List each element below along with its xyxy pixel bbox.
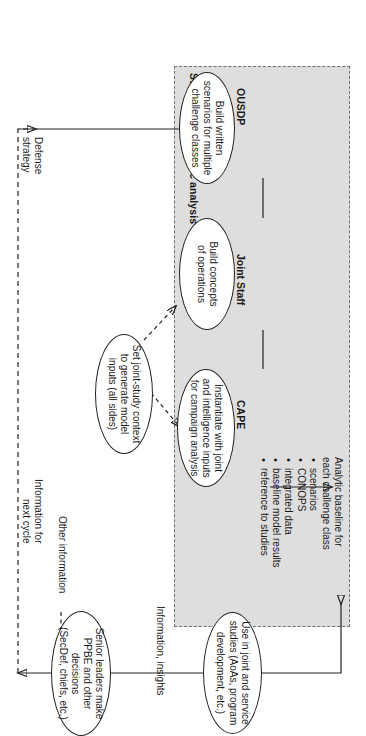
wire-next-cycle-to-defense-strategy (18, 129, 36, 673)
edge-label-defense-strategy: Defense strategy (20, 137, 44, 174)
node-ousdp-text: Build written scenarios for multiple cha… (189, 81, 226, 175)
node-ousdp[interactable]: Build written scenarios for multiple cha… (179, 72, 235, 184)
wire-baseline-to-studies (262, 604, 341, 673)
node-cape-text: Instantiate with joint and intelligence … (188, 379, 225, 478)
node-joint-service-studies[interactable]: Use in joint and service studies (AoAs, … (203, 612, 262, 734)
node-senior-leaders[interactable]: Senior leaders make PPBE and other decis… (51, 611, 111, 736)
node-joint-staff[interactable]: Build concepts of operations (179, 218, 235, 330)
node-joint-service-studies-text: Use in joint and service studies (AoAs, … (214, 621, 251, 726)
node-joint-staff-text: Build concepts of operations (195, 241, 219, 306)
node-cape[interactable]: Instantiate with joint and intelligence … (177, 369, 235, 487)
wire-joint-study-to-joint-staff (144, 306, 176, 340)
edge-label-other-information: Other information (56, 516, 68, 593)
edge-label-information-insights: Information, insights (154, 606, 166, 696)
node-joint-study-context[interactable]: Set joint-study context to generate mode… (95, 334, 153, 454)
node-senior-leaders-text: Senior leaders make PPBE and other decis… (57, 616, 106, 731)
wire-joint-study-to-cape (151, 393, 180, 427)
node-joint-study-context-text: Set joint-study context to generate mode… (106, 345, 143, 443)
edge-label-information-next-cycle: Information for next cycle (20, 479, 44, 543)
